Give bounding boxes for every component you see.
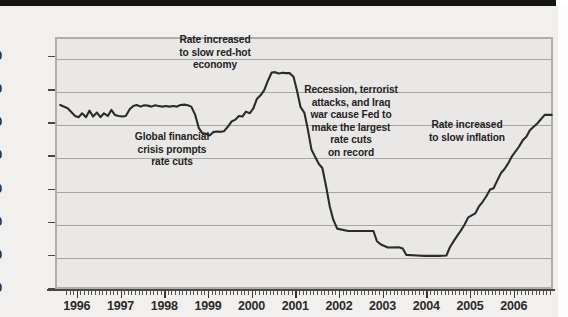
x-axis-minor-tick	[237, 291, 238, 295]
y-axis-tick-label: 4.0	[0, 148, 2, 162]
x-axis-minor-tick	[441, 291, 442, 295]
x-axis-minor-tick	[488, 291, 489, 295]
x-axis-minor-tick	[193, 291, 194, 295]
x-axis-minor-tick	[397, 291, 398, 295]
x-axis-minor-tick	[241, 291, 242, 295]
x-axis-minor-tick	[88, 291, 89, 295]
x-axis-minor-tick	[106, 291, 107, 295]
x-axis-minor-tick	[375, 291, 376, 295]
x-axis-minor-tick	[390, 291, 391, 295]
x-axis-minor-tick	[412, 291, 413, 295]
x-axis-minor-tick	[281, 291, 282, 295]
x-axis-minor-tick	[321, 291, 322, 295]
x-axis-minor-tick	[455, 291, 456, 295]
x-axis-minor-tick	[226, 291, 227, 295]
x-axis-minor-tick	[95, 291, 96, 295]
x-axis-minor-tick	[190, 291, 191, 295]
x-axis-minor-tick	[139, 291, 140, 295]
x-axis-minor-tick	[354, 291, 355, 295]
x-axis-minor-tick	[99, 291, 100, 295]
x-axis-minor-tick	[222, 291, 223, 295]
x-axis-minor-tick	[295, 291, 296, 298]
x-axis-minor-tick	[466, 291, 467, 295]
x-axis-minor-tick	[113, 291, 114, 295]
x-axis-minor-tick	[368, 291, 369, 295]
y-axis-tick-label: 2.0	[0, 215, 2, 229]
x-axis-minor-tick	[208, 291, 209, 298]
x-axis-minor-tick	[303, 291, 304, 295]
x-axis-minor-tick	[179, 291, 180, 295]
x-axis-minor-tick	[70, 291, 71, 295]
x-axis-minor-tick	[550, 291, 551, 295]
x-axis-minor-tick	[434, 291, 435, 295]
x-axis-minor-tick	[452, 291, 453, 295]
x-axis-minor-tick	[346, 291, 347, 295]
x-axis-minor-tick	[168, 291, 169, 295]
x-axis-minor-tick	[485, 291, 486, 295]
annotation-global-financial-crisis: Global financial crisis prompts rate cut…	[98, 131, 246, 169]
x-axis-minor-tick	[175, 291, 176, 295]
x-axis-minor-tick	[84, 291, 85, 295]
annotation-rate-increased-inflation: Rate increased to slow inflation	[400, 119, 534, 144]
x-axis-minor-tick	[459, 291, 460, 295]
x-axis-minor-tick	[244, 291, 245, 295]
x-axis-minor-tick	[306, 291, 307, 295]
x-axis-minor-tick	[386, 291, 387, 295]
x-axis-minor-tick	[445, 291, 446, 295]
x-axis-minor-tick	[263, 291, 264, 295]
x-axis-minor-tick	[517, 291, 518, 295]
x-axis-minor-tick	[492, 291, 493, 295]
y-axis-tick-mark	[48, 155, 55, 157]
x-axis-minor-tick	[372, 291, 373, 295]
x-axis-minor-tick	[131, 291, 132, 295]
x-axis-minor-tick	[284, 291, 285, 295]
x-axis-minor-tick	[153, 291, 154, 295]
chart-screenshot: Percent 01.02.03.04.05.06.07.0 199619971…	[0, 0, 568, 317]
x-axis-minor-tick	[514, 291, 515, 298]
x-axis-minor-tick	[273, 291, 274, 295]
x-axis-minor-tick	[212, 291, 213, 295]
x-axis-minor-tick	[299, 291, 300, 295]
x-axis-minor-tick	[252, 291, 253, 298]
x-axis-minor-tick	[248, 291, 249, 295]
x-axis-minor-tick	[117, 291, 118, 295]
y-axis-tick-mark	[48, 56, 55, 58]
x-axis-minor-tick	[259, 291, 260, 295]
x-axis-minor-tick	[142, 291, 143, 295]
annotation-rate-increased-red-hot: Rate increased to slow red-hot economy	[140, 34, 290, 72]
x-axis-minor-tick	[536, 291, 537, 295]
x-axis-minor-tick	[470, 291, 471, 298]
x-axis-minor-tick	[292, 291, 293, 295]
x-axis-minor-tick	[383, 291, 384, 298]
x-axis-minor-tick	[150, 291, 151, 295]
x-axis-minor-tick	[270, 291, 271, 295]
x-axis-minor-tick	[310, 291, 311, 295]
x-axis-minor-tick	[121, 291, 122, 298]
x-axis-minor-tick	[182, 291, 183, 295]
x-axis-minor-tick	[277, 291, 278, 295]
x-axis-minor-tick	[324, 291, 325, 295]
y-axis-tick-mark	[48, 255, 55, 257]
x-axis-minor-tick	[332, 291, 333, 295]
x-axis-minor-tick	[335, 291, 336, 295]
x-axis-minor-tick	[506, 291, 507, 295]
y-axis-tick-label: 5.0	[0, 115, 2, 129]
x-axis-minor-tick	[164, 291, 165, 298]
x-axis-minor-tick	[317, 291, 318, 295]
x-axis-minor-tick	[171, 291, 172, 295]
x-axis-minor-tick	[128, 291, 129, 295]
x-axis-minor-tick	[448, 291, 449, 295]
y-axis-tick-label: 3.0	[0, 182, 2, 196]
x-axis-minor-tick	[110, 291, 111, 295]
y-axis-tick-label: 1.0	[0, 248, 2, 262]
x-axis-minor-tick	[423, 291, 424, 295]
x-axis-minor-tick	[146, 291, 147, 295]
x-axis-minor-tick	[543, 291, 544, 295]
x-axis-minor-tick	[499, 291, 500, 295]
x-axis-minor-tick	[230, 291, 231, 295]
x-axis-minor-tick	[102, 291, 103, 295]
x-axis-minor-tick	[73, 291, 74, 295]
x-axis-minor-tick	[394, 291, 395, 295]
x-axis-minor-tick	[463, 291, 464, 295]
x-axis-minor-tick	[379, 291, 380, 295]
